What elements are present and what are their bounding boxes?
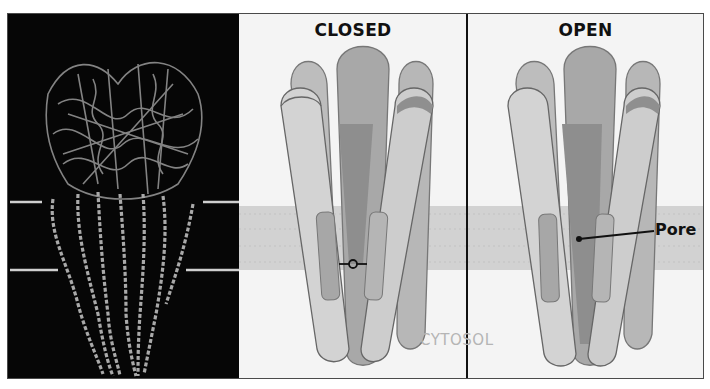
- closed-title: CLOSED: [239, 20, 467, 40]
- open-title: OPEN: [468, 20, 703, 40]
- protein-structure-panel: [8, 14, 239, 378]
- closed-channel-illustration: [239, 14, 467, 380]
- pore-label: Pore: [655, 220, 696, 239]
- cytosol-label: CYTOSOL: [420, 331, 494, 349]
- open-state-panel: OPEN Pore: [468, 14, 703, 378]
- ribbon-structure-image: [8, 14, 239, 380]
- open-channel-illustration: [468, 14, 703, 380]
- closed-state-panel: CLOSED: [239, 14, 467, 378]
- figure-frame: CLOSED OPEN Pore CYTOSOL: [7, 13, 704, 379]
